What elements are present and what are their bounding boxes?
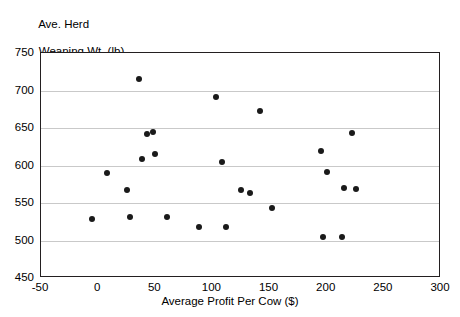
gridline — [41, 166, 439, 167]
x-axis-tick-label: 100 — [202, 281, 221, 293]
plot-area — [40, 52, 440, 277]
gridline — [41, 241, 439, 242]
data-point — [247, 190, 253, 196]
y-axis-tick-label: 450 — [0, 271, 34, 283]
y-axis-tick-label: 650 — [0, 121, 34, 133]
data-point — [320, 234, 326, 240]
x-axis-tick-label: -50 — [32, 281, 49, 293]
data-point — [238, 187, 244, 193]
data-point — [124, 187, 130, 193]
data-point — [89, 216, 95, 222]
gridline — [41, 203, 439, 204]
data-point — [152, 151, 158, 157]
x-axis-tick-label: 0 — [94, 281, 100, 293]
data-point — [257, 108, 263, 114]
gridline — [41, 91, 439, 92]
data-point — [324, 169, 330, 175]
data-point — [349, 130, 355, 136]
y-axis-tick-label: 550 — [0, 196, 34, 208]
x-axis-tick-label: 200 — [316, 281, 335, 293]
data-point — [127, 214, 133, 220]
data-point — [339, 234, 345, 240]
gridline — [41, 128, 439, 129]
data-point — [213, 94, 219, 100]
data-point — [223, 224, 229, 230]
data-point — [269, 205, 275, 211]
x-axis-tick-label: 150 — [259, 281, 278, 293]
data-point — [219, 159, 225, 165]
data-point — [104, 170, 110, 176]
y-axis-tick-label: 600 — [0, 159, 34, 171]
y-axis-tick-label: 500 — [0, 234, 34, 246]
scatter-chart: Ave. Herd Weaning Wt. (lb) 4505005506006… — [0, 0, 460, 317]
data-point — [164, 214, 170, 220]
data-point — [136, 76, 142, 82]
data-point — [139, 156, 145, 162]
x-axis-title: Average Profit Per Cow ($) — [0, 295, 460, 307]
x-axis-tick-label: 300 — [430, 281, 449, 293]
y-axis-title-line-1: Ave. Herd — [38, 18, 89, 30]
x-axis-tick-label: 50 — [148, 281, 161, 293]
data-point — [318, 148, 324, 154]
data-point — [150, 129, 156, 135]
data-point — [341, 185, 347, 191]
data-point — [196, 224, 202, 230]
x-axis-tick-label: 250 — [373, 281, 392, 293]
data-point — [353, 186, 359, 192]
y-axis-tick-label: 700 — [0, 84, 34, 96]
